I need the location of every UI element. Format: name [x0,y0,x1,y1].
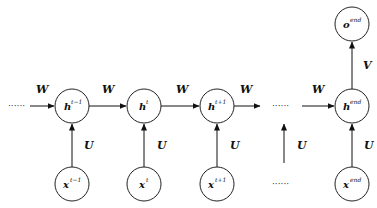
node-x-tm1: x t−1 [55,167,89,201]
svg-text:x: x [138,179,146,190]
node-o-end: o end [335,7,369,41]
node-h-t: h t [127,89,161,123]
svg-text:t+1: t+1 [215,98,226,105]
label-w-1: W [102,83,116,96]
svg-text:x: x [342,179,350,190]
label-w-3: W [240,83,254,96]
label-v: V [363,59,373,72]
svg-text:end: end [350,16,361,23]
node-x-t: x t [127,167,161,201]
node-h-end: h end [335,89,369,123]
leading-ellipsis: ······ [8,101,25,111]
input-ellipsis: ······ [272,179,289,189]
svg-text:o: o [343,19,350,30]
node-x-end: x end [335,167,369,201]
label-w-0: W [36,83,50,96]
label-u-2: U [157,139,168,152]
label-u-dots: U [297,139,308,152]
middle-ellipsis: ······ [272,101,289,111]
label-w-4: W [312,83,326,96]
node-h-tp1: h t+1 [200,89,234,123]
svg-text:t+1: t+1 [215,176,226,183]
svg-text:end: end [350,176,361,183]
svg-text:end: end [350,98,361,105]
svg-text:t−1: t−1 [71,98,82,105]
label-u-3: U [230,139,241,152]
rnn-diagram: ······ W W W W ······ W h t−1 h t h t+1 … [0,0,377,208]
label-u-end: U [364,139,375,152]
svg-text:t−1: t−1 [70,176,81,183]
svg-text:x: x [207,179,215,190]
node-x-tp1: x t+1 [200,167,234,201]
label-u-1: U [84,139,95,152]
label-w-2: W [176,83,190,96]
node-h-tm1: h t−1 [55,89,89,123]
svg-text:x: x [62,179,70,190]
